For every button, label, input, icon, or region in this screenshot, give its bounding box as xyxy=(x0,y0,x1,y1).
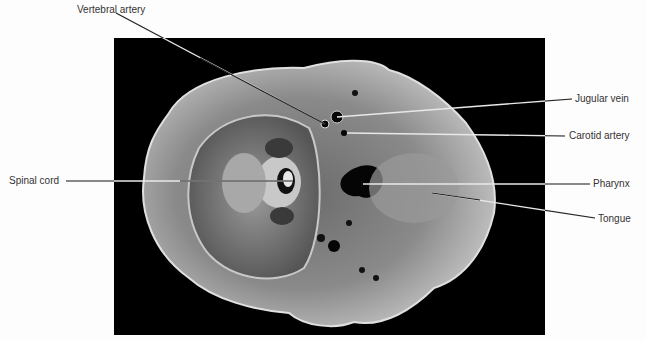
label-tongue: Tongue xyxy=(598,213,631,225)
label-carotid-artery: Carotid artery xyxy=(569,130,630,142)
leader-lines xyxy=(0,0,646,341)
label-spinal-cord: Spinal cord xyxy=(9,175,59,187)
label-vertebral-artery: Vertebral artery xyxy=(77,4,145,16)
jugular-vein-leader-line xyxy=(337,99,572,117)
label-jugular-vein: Jugular vein xyxy=(575,93,629,105)
carotid-artery-leader-line xyxy=(347,133,565,136)
anatomy-figure: Vertebral artery Jugular vein Carotid ar… xyxy=(0,0,646,341)
label-pharynx: Pharynx xyxy=(593,178,630,190)
